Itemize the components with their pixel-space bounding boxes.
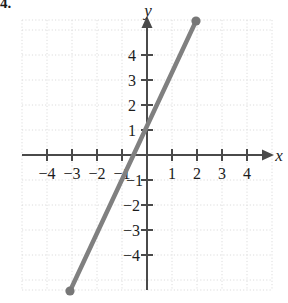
x-tick-label: −4	[38, 165, 55, 182]
coordinate-plane-plot: −4 −3 −2 −1 1 2 3 4 4 3 2 1 −1 −2 −3 −4 …	[0, 0, 288, 303]
x-tick-label: −3	[63, 165, 80, 182]
y-tick-label: −2	[123, 197, 140, 214]
y-axis-label: y	[142, 1, 152, 20]
x-axis-label: x	[274, 146, 283, 165]
y-tick-label: −1	[126, 172, 143, 189]
y-tick-label: 4	[128, 47, 136, 64]
y-tick-label: 3	[128, 72, 136, 89]
endpoint-marker-lower	[65, 286, 74, 295]
endpoint-marker-upper	[191, 16, 200, 25]
x-tick-label: 4	[243, 165, 251, 182]
y-tick-label: −3	[123, 222, 140, 239]
y-tick-label: 2	[128, 97, 136, 114]
graph-figure: 4.	[0, 0, 288, 303]
y-axis	[142, 16, 153, 290]
x-tick-label: 1	[168, 165, 176, 182]
x-tick-label: 3	[218, 165, 226, 182]
x-tick-label: −2	[88, 165, 105, 182]
y-tick-label: 1	[128, 122, 136, 139]
y-tick-label: −4	[123, 247, 140, 264]
x-tick-label: 2	[193, 165, 201, 182]
